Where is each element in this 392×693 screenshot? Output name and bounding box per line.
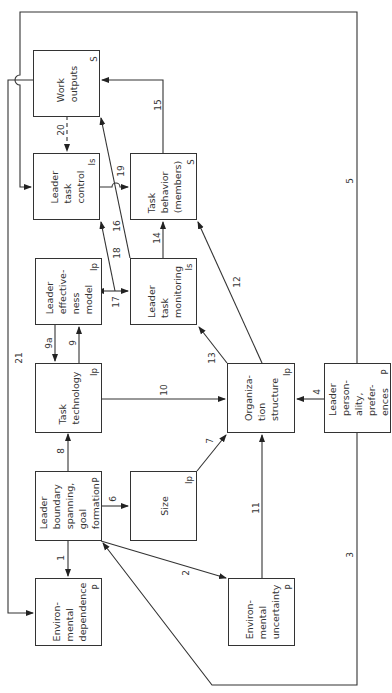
node-type-tag: S xyxy=(185,159,195,164)
edge-15 xyxy=(102,80,163,153)
node-label: Environ- mental uncertainty xyxy=(242,585,281,640)
diagram-canvas: Work outputs S Leader task control Is Ta… xyxy=(0,0,392,693)
node-label: Environ- mental dependence xyxy=(49,583,88,642)
node-size[interactable]: Size Ip xyxy=(130,471,197,541)
edge-label-1: 1 xyxy=(56,555,66,561)
edge-label-2: 2 xyxy=(181,570,191,576)
node-leader-task-monitoring[interactable]: Leader task monitoring Is xyxy=(130,258,197,325)
node-task-behavior[interactable]: Task behavior (members) S xyxy=(130,153,197,220)
edge-label-15: 15 xyxy=(153,99,163,110)
node-leader-effectiveness-model[interactable]: Leader effective- ness model Ip xyxy=(35,258,102,325)
node-type-tag: Is xyxy=(88,159,98,166)
edge-label-14: 14 xyxy=(152,232,162,243)
node-label: Task behavior (members) xyxy=(144,160,183,213)
node-environmental-uncertainty[interactable]: Environ- mental uncertainty P xyxy=(228,578,295,646)
edge-label-18: 18 xyxy=(112,247,122,258)
node-environmental-dependence[interactable]: Environ- mental dependence P xyxy=(35,578,102,646)
node-type-tag: S xyxy=(88,56,98,61)
edge-16 xyxy=(101,118,130,258)
edge-label-13: 13 xyxy=(207,352,217,363)
edge-12 xyxy=(198,222,262,363)
node-label: Leader task monitoring xyxy=(144,266,183,318)
edge-label-17: 17 xyxy=(111,296,121,307)
node-task-technology[interactable]: Task technology Ip xyxy=(35,363,102,433)
node-type-tag: P xyxy=(283,584,293,589)
node-type-tag: P xyxy=(90,584,100,589)
node-type-tag: P xyxy=(90,477,100,482)
node-label: Size xyxy=(157,496,170,516)
edge-label-9a: 9a xyxy=(44,337,54,348)
edge-2 xyxy=(101,541,226,578)
edge-label-20: 20 xyxy=(56,124,66,135)
edge-label-19: 19 xyxy=(116,165,126,176)
edge-label-16: 16 xyxy=(112,220,122,231)
edge-label-4: 4 xyxy=(312,389,322,395)
edge-label-7: 7 xyxy=(205,438,215,444)
node-label: Task technology xyxy=(56,372,82,425)
node-label: Work outputs xyxy=(54,65,80,101)
edge-19 xyxy=(100,183,128,187)
node-label: Leader boundary spanning, goal formation xyxy=(36,483,101,530)
node-type-tag: Ip xyxy=(282,368,292,376)
node-leader-boundary-spanning[interactable]: Leader boundary spanning, goal formation… xyxy=(35,471,102,541)
edge-label-12: 12 xyxy=(232,276,242,287)
node-label: Leader task control xyxy=(47,170,86,203)
node-type-tag: Is xyxy=(185,264,195,271)
edge-label-10: 10 xyxy=(159,384,169,395)
edge-label-9: 9 xyxy=(68,340,78,346)
node-label: Leader effective- ness model xyxy=(43,269,95,314)
node-type-tag: Ip xyxy=(184,476,194,484)
node-label: Leader person- ality, prefer- ences xyxy=(325,380,390,416)
node-type-tag: Ip xyxy=(89,368,99,376)
edge-label-11: 11 xyxy=(251,502,261,513)
node-work-outputs[interactable]: Work outputs S xyxy=(33,50,100,117)
edge-label-8: 8 xyxy=(56,448,66,454)
edge-label-6: 6 xyxy=(108,496,118,502)
edge-label-21: 21 xyxy=(14,352,24,363)
node-leader-task-control[interactable]: Leader task control Is xyxy=(33,153,100,220)
node-type-tag: Ip xyxy=(89,263,99,271)
edge-label-5: 5 xyxy=(345,178,355,184)
node-type-tag: P xyxy=(379,369,389,374)
edge-label-3: 3 xyxy=(345,552,355,558)
node-label: Organiza- tion structure xyxy=(242,375,281,421)
node-organization-structure[interactable]: Organiza- tion structure Ip xyxy=(227,363,295,433)
node-leader-personality[interactable]: Leader person- ality, prefer- ences P xyxy=(324,363,391,433)
